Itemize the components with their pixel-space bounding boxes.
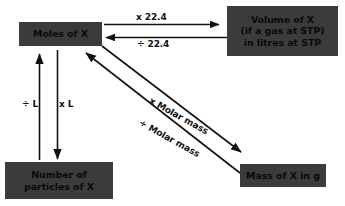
edge-label-moles-to-particles: x L: [59, 99, 73, 109]
edge-label-particles-to-moles: ÷ L: [22, 99, 38, 109]
node-number-of-particles-of-x[interactable]: Number of particles of X: [5, 162, 113, 199]
node-moles-line-1: Moles of X: [33, 28, 88, 39]
node-mass-line-1: Mass of X in g: [246, 170, 320, 181]
edge-label-moles-to-volume: x 22.4: [136, 12, 167, 22]
node-volume-line-1: Volume of X: [251, 14, 314, 25]
mole-conversion-diagram: Moles of X Volume of X (if a gas at STP)…: [0, 0, 345, 206]
node-moles-of-x[interactable]: Moles of X: [19, 22, 102, 46]
node-mass-of-x-in-g[interactable]: Mass of X in g: [240, 164, 326, 187]
node-volume-line-2: (if a gas at STP): [240, 25, 324, 36]
node-particles-line-1: Number of: [31, 169, 87, 180]
node-volume-line-3: in litres at STP: [244, 37, 321, 48]
node-volume-of-x[interactable]: Volume of X (if a gas at STP) in litres …: [227, 6, 338, 56]
node-particles-line-2: particles of X: [24, 181, 94, 192]
edge-label-volume-to-moles: ÷ 22.4: [137, 39, 169, 49]
